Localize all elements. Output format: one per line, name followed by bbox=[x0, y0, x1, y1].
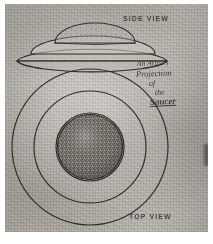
caption-line-5: Saucer bbox=[150, 96, 206, 107]
paper-sheet: SIDE VIEW TOP VIEW An Artist's Projectio… bbox=[5, 4, 208, 232]
scanned-page: SIDE VIEW TOP VIEW An Artist's Projectio… bbox=[0, 0, 213, 244]
caption-line-2: Projection bbox=[136, 66, 206, 78]
saucer-top-dome-shade bbox=[55, 23, 135, 43]
top-view-label: TOP VIEW bbox=[129, 213, 172, 220]
handwritten-caption: An Artist's Projection of the Saucer bbox=[136, 60, 206, 107]
saucer-drawing bbox=[5, 4, 208, 232]
side-view-label: SIDE VIEW bbox=[123, 15, 169, 22]
caption-line-1: An Artist's bbox=[137, 57, 206, 68]
